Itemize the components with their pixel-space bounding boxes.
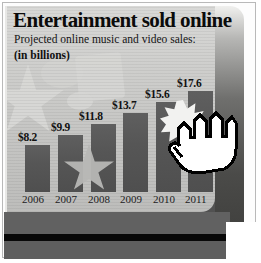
x-axis-labels: 2006 2007 2008 2009 2010 2011 (5, 192, 215, 212)
value-label-2006: $8.2 (18, 131, 37, 143)
bar-2006 (25, 145, 50, 192)
units-label: (in billions) (14, 49, 70, 61)
x-tick-2011: 2011 (185, 193, 207, 205)
value-label-2007: $9.9 (51, 121, 70, 133)
bar-2009 (123, 113, 148, 192)
page-subtitle: Projected online music and video sales: (14, 33, 196, 45)
bottom-right-notch (226, 222, 259, 261)
value-label-2009: $13.7 (112, 99, 136, 111)
hand-pointer-icon (168, 103, 238, 179)
x-tick-2010: 2010 (153, 193, 175, 205)
bottom-band-lower (4, 241, 226, 259)
infographic-clipping: $8.2 $9.9 $11.8 $13.7 $15.6 $17.6 2006 2… (0, 0, 261, 263)
value-label-2010: $15.6 (145, 88, 169, 100)
x-tick-2006: 2006 (22, 193, 44, 205)
value-label-2011: $17.6 (177, 77, 201, 89)
value-label-2008: $11.8 (79, 110, 103, 122)
x-tick-2008: 2008 (88, 193, 110, 205)
page-title: Entertainment sold online (13, 8, 231, 33)
x-tick-2009: 2009 (120, 193, 142, 205)
x-tick-2007: 2007 (55, 193, 77, 205)
bottom-black-stripe (4, 234, 226, 241)
